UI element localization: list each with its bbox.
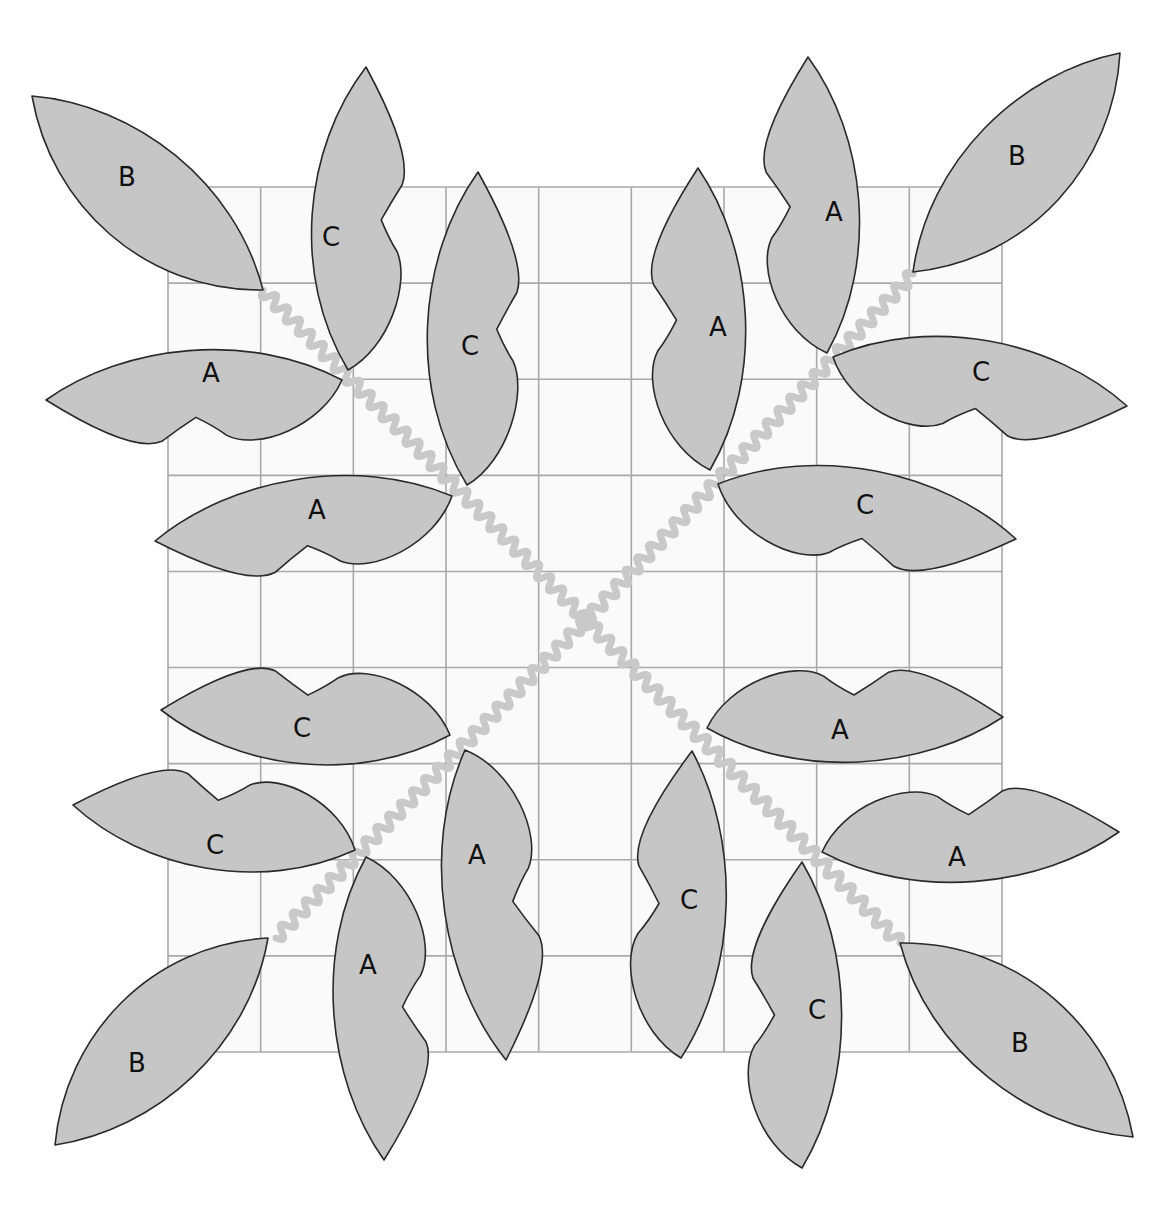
leaf-label: A — [825, 197, 843, 227]
leaf-label: A — [202, 358, 220, 388]
leaf-piece-b-top-right: B — [913, 53, 1120, 272]
leaf-label: B — [118, 162, 136, 192]
leaf-label: C — [808, 995, 826, 1025]
leaf-label: C — [856, 490, 874, 520]
leaf-label: B — [1008, 141, 1026, 171]
leaf-label: A — [308, 495, 326, 525]
leaf-label: A — [831, 715, 849, 745]
leaf-label: C — [206, 830, 224, 860]
leaf-label: A — [359, 950, 377, 980]
leaf-label: C — [322, 222, 340, 252]
applique-leaf-wreath-diagram: BCCAABAACCCCBAAAACCB — [0, 0, 1176, 1212]
leaf-label: C — [293, 713, 311, 743]
leaf-label: C — [461, 331, 479, 361]
leaf-label: C — [680, 885, 698, 915]
leaf-label: A — [948, 842, 966, 872]
leaf-label: B — [128, 1048, 146, 1078]
leaf-label: A — [468, 840, 486, 870]
leaf-label: B — [1011, 1028, 1029, 1058]
leaf-label: A — [709, 312, 727, 342]
leaf-label: C — [972, 357, 990, 387]
